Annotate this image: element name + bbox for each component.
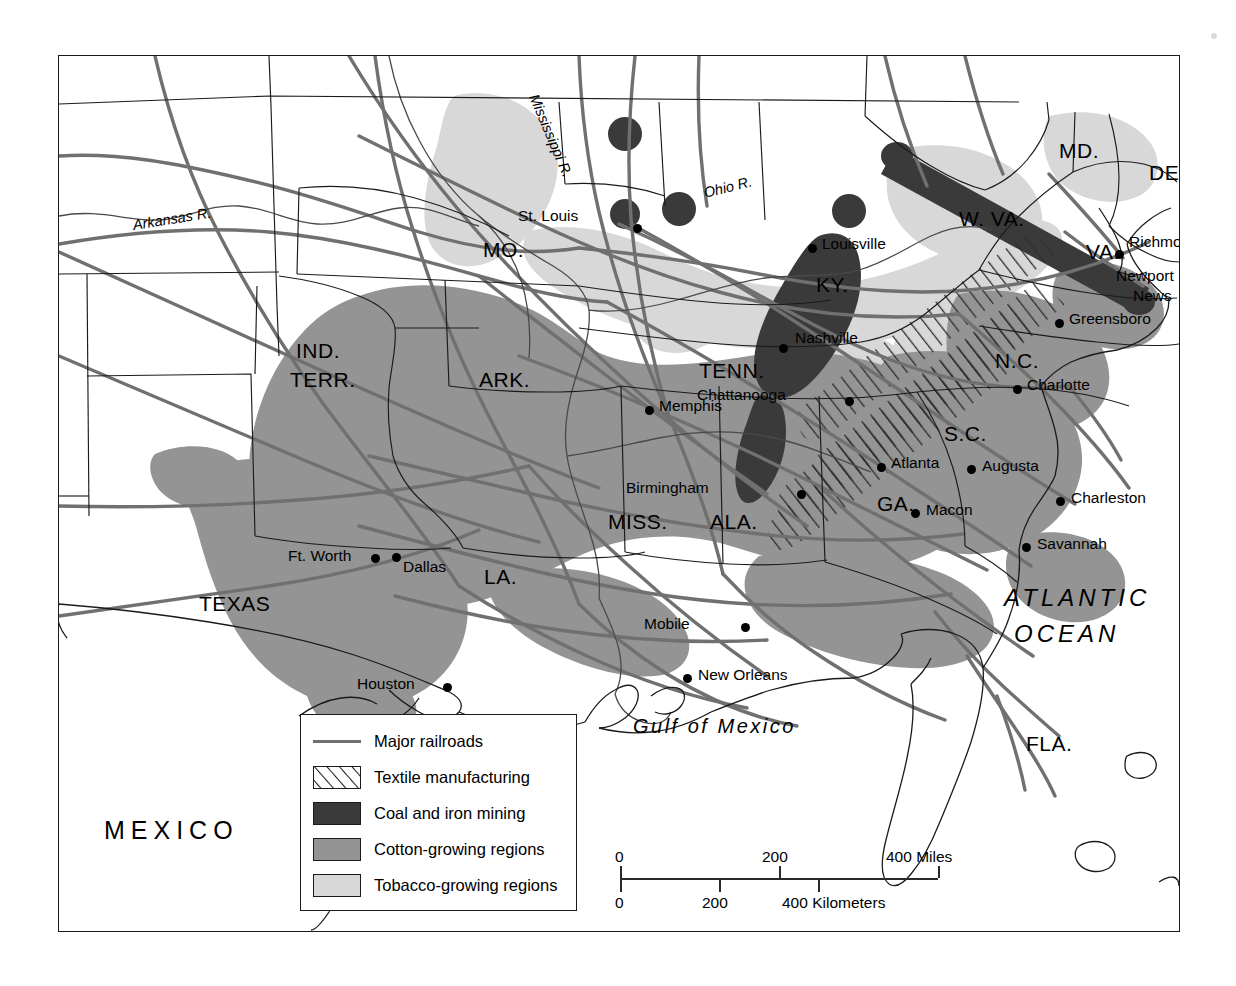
city-label-macon: Macon: [926, 502, 973, 518]
city-dot-memphis: [645, 406, 654, 415]
state-label-wva: W. VA.: [959, 208, 1025, 229]
scale-label-miles-400: 400 Miles: [886, 848, 952, 866]
legend-label-tobacco: Tobacco-growing regions: [374, 876, 557, 895]
city-dot-ft-worth: [371, 554, 380, 563]
coal-swatch-icon: [313, 802, 361, 825]
state-label-ala: ALA.: [710, 511, 758, 532]
legend-label-coal: Coal and iron mining: [374, 804, 525, 823]
city-label-houston: Houston: [357, 676, 415, 692]
city-dot-new-orleans: [683, 674, 692, 683]
city-dot-louisville: [808, 244, 817, 253]
railroad-line-icon: [313, 740, 361, 743]
city-label-nashville: Nashville: [795, 330, 858, 346]
textile-swatch-icon: [313, 766, 361, 789]
legend-item-cotton: Cotton-growing regions: [301, 831, 576, 867]
city-label-chattanooga: Chattanooga: [697, 387, 786, 403]
city-dot-greensboro: [1055, 319, 1064, 328]
state-label-ark: ARK.: [479, 369, 530, 390]
city-dot-dallas: [392, 553, 401, 562]
state-label-fla: FLA.: [1026, 733, 1072, 754]
state-label-terr: TERR.: [290, 369, 356, 390]
state-label-sc: S.C.: [944, 423, 987, 444]
state-label-ind: IND.: [296, 340, 340, 361]
city-label-mobile: Mobile: [644, 616, 690, 632]
map-frame: MO. ARK. IND. TERR. TENN. KY. MISS. ALA.…: [58, 55, 1180, 932]
state-label-la: LA.: [484, 566, 517, 587]
scale-label-miles-0: 0: [615, 848, 624, 866]
state-label-texas: TEXAS: [199, 593, 270, 614]
legend-item-railroads: Major railroads: [301, 723, 576, 759]
legend-item-textile: Textile manufacturing: [301, 759, 576, 795]
city-dot-savannah: [1022, 543, 1031, 552]
city-dot-mobile: [741, 623, 750, 632]
city-dot-newport-news: [1179, 262, 1180, 271]
city-label-savannah: Savannah: [1037, 536, 1107, 552]
scale-tick-miles-200: [779, 866, 781, 878]
city-label-richmond: Richmond: [1129, 234, 1180, 250]
scale-label-km-400: 400 Kilometers: [782, 894, 885, 912]
city-label-greensboro: Greensboro: [1069, 311, 1151, 327]
city-dot-chattanooga: [845, 397, 854, 406]
state-label-ga: GA.: [877, 493, 915, 514]
city-label-louisville: Louisville: [822, 236, 886, 252]
city-label-atlanta: Atlanta: [891, 455, 939, 471]
scale-label-km-200: 200: [702, 894, 728, 912]
city-label-dallas: Dallas: [403, 559, 446, 575]
state-label-nc: N.C.: [995, 350, 1039, 371]
ocean-label-atlantic: ATLANTIC: [1004, 586, 1150, 610]
state-label-tenn: TENN.: [699, 360, 765, 381]
legend-item-tobacco: Tobacco-growing regions: [301, 867, 576, 903]
city-dot-charlotte: [1013, 385, 1022, 394]
city-label-newport: Newport: [1116, 268, 1174, 284]
state-label-del: DEL.: [1149, 162, 1180, 183]
country-label-mexico: MEXICO: [104, 818, 239, 843]
city-label-news: News: [1133, 288, 1172, 304]
city-dot-birmingham: [797, 490, 806, 499]
state-label-md: MD.: [1059, 140, 1099, 161]
scale-tick-miles-400: [938, 866, 940, 878]
city-dot-atlanta: [877, 463, 886, 472]
map-graphics: [59, 56, 1179, 931]
scale-label-miles-200: 200: [762, 848, 788, 866]
legend-item-coal: Coal and iron mining: [301, 795, 576, 831]
speck-top-right: [1211, 33, 1217, 39]
state-label-ky: KY.: [816, 274, 849, 295]
city-dot-augusta: [967, 465, 976, 474]
city-label-new-orleans: New Orleans: [698, 667, 788, 683]
city-label-charleston: Charleston: [1071, 490, 1146, 506]
city-label-augusta: Augusta: [982, 458, 1039, 474]
scale-tick-km-200: [719, 880, 721, 892]
city-label-st-louis: St. Louis: [518, 208, 578, 224]
city-label-ft-worth: Ft. Worth: [288, 548, 351, 564]
city-dot-charleston: [1056, 497, 1065, 506]
city-dot-houston: [443, 683, 452, 692]
legend-label-railroads: Major railroads: [374, 732, 483, 751]
city-dot-richmond: [1115, 250, 1124, 259]
state-label-mo: MO.: [483, 239, 524, 260]
scale-tick-km-0: [620, 880, 622, 892]
legend-label-cotton: Cotton-growing regions: [374, 840, 545, 859]
ocean-label-ocean: OCEAN: [1014, 622, 1119, 646]
city-dot-nashville: [779, 344, 788, 353]
gulf-label: Gulf of Mexico: [633, 716, 796, 736]
scale-tick-miles-0: [620, 866, 622, 878]
scale-bar: 0 200 400 Miles 0 200 400 Kilometers: [614, 848, 944, 920]
tobacco-swatch-icon: [313, 874, 361, 897]
scale-label-km-0: 0: [615, 894, 624, 912]
city-label-birmingham: Birmingham: [626, 480, 709, 496]
city-label-charlotte: Charlotte: [1027, 377, 1090, 393]
city-dot-macon: [911, 509, 920, 518]
scale-tick-km-400: [818, 880, 820, 892]
scale-bar-axis: [620, 878, 938, 880]
map-page: MO. ARK. IND. TERR. TENN. KY. MISS. ALA.…: [0, 0, 1236, 986]
city-dot-st-louis: [633, 224, 642, 233]
cotton-swatch-icon: [313, 838, 361, 861]
state-label-miss: MISS.: [608, 511, 668, 532]
legend-label-textile: Textile manufacturing: [374, 768, 530, 787]
map-legend: Major railroads Textile manufacturing Co…: [300, 714, 577, 911]
